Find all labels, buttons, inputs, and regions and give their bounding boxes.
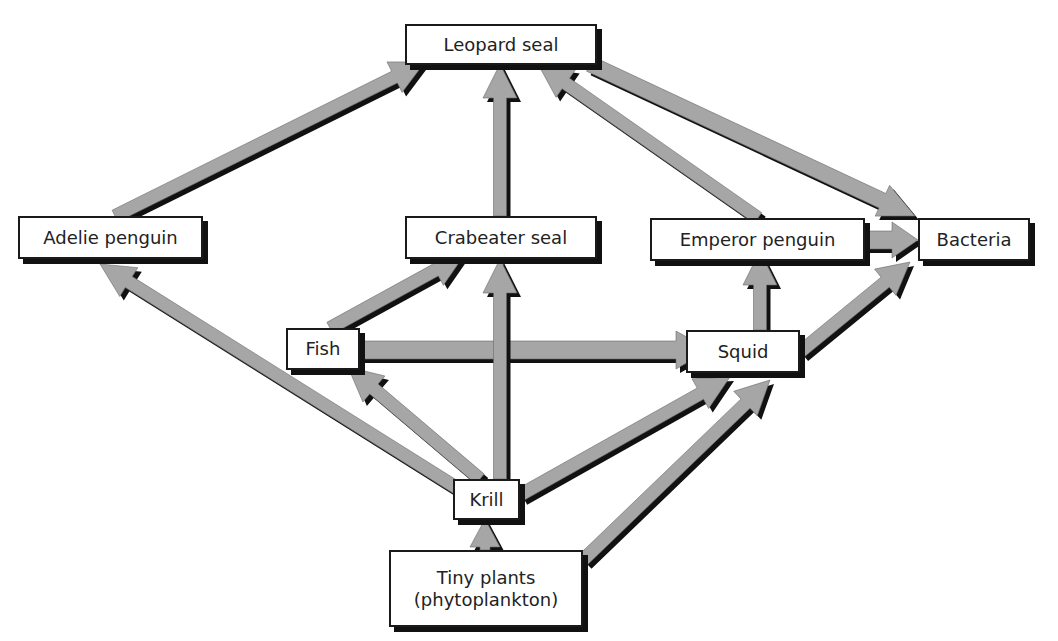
arrow-crabeater-seal-to-leopard-seal [483, 64, 521, 220]
node-label: Leopard seal [444, 34, 559, 56]
arrow-body [483, 259, 517, 479]
node-krill: Krill [453, 479, 520, 520]
food-web-diagram [0, 0, 1058, 641]
node-adelie-penguin: Adelie penguin [18, 216, 203, 259]
node-crabeater-seal: Crabeater seal [405, 216, 597, 259]
arrow-fish-to-crabeater-seal [327, 254, 469, 338]
arrow-squid-to-emperor-penguin [743, 251, 781, 334]
node-label-line2: (phytoplankton) [414, 589, 558, 611]
node-emperor-penguin: Emperor penguin [650, 218, 865, 261]
node-label: Crabeater seal [435, 227, 567, 249]
arrow-body [517, 377, 730, 501]
node-bacteria: Bacteria [918, 218, 1030, 261]
node-leopard-seal: Leopard seal [405, 24, 597, 65]
arrow-body [112, 62, 425, 222]
node-label: Fish [306, 338, 341, 360]
arrow-squid-to-bacteria [796, 262, 914, 361]
arrow-body [470, 519, 500, 550]
arrow-body [360, 331, 710, 369]
node-label: Adelie penguin [43, 227, 177, 249]
node-label: Krill [469, 489, 503, 511]
arrow-emperor-penguin-to-bacteria [864, 222, 922, 262]
node-label: Squid [718, 341, 769, 363]
arrow-fish-to-squid [360, 331, 714, 373]
node-label: Bacteria [937, 229, 1012, 251]
arrow-body [100, 264, 469, 499]
arrow-body [743, 251, 777, 330]
node-squid: Squid [686, 330, 800, 373]
node-fish: Fish [286, 328, 360, 370]
arrow-krill-to-adelie-penguin [100, 264, 473, 503]
arrow-krill-to-crabeater-seal [483, 259, 521, 483]
arrow-body [796, 262, 910, 357]
arrow-body [327, 254, 465, 334]
node-tiny-plants: Tiny plants (phytoplankton) [389, 550, 583, 627]
node-label-line1: Tiny plants [437, 567, 536, 589]
arrow-adelie-penguin-to-leopard-seal [112, 62, 429, 226]
node-label: Emperor penguin [680, 229, 836, 251]
arrow-tiny-plants-phytoplankton--to-krill [470, 519, 504, 554]
